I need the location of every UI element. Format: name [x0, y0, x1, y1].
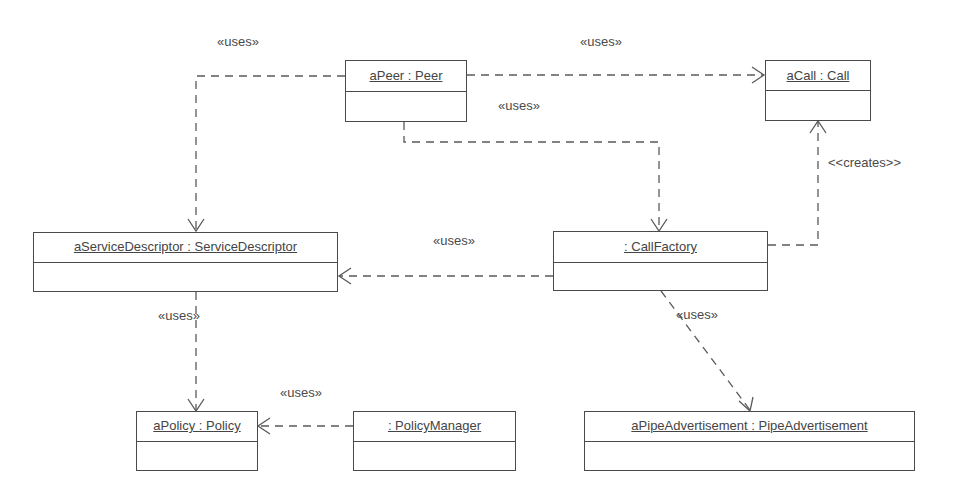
object-name: : PolicyManager	[354, 418, 515, 433]
compartment-divider	[137, 441, 257, 442]
object-name: aPipeAdvertisement : PipeAdvertisement	[585, 418, 914, 433]
object-apeer[interactable]: aPeer : Peer	[345, 60, 467, 122]
object-acall[interactable]: aCall : Call	[765, 60, 871, 121]
object-apipeadvertisement[interactable]: aPipeAdvertisement : PipeAdvertisement	[584, 411, 915, 471]
stereotype-label-callfactory-pipeadvertisement: «uses»	[676, 307, 718, 322]
object-policymanager[interactable]: : PolicyManager	[353, 411, 516, 471]
stereotype-label-peer-servicedescriptor: «uses»	[217, 34, 259, 49]
compartment-divider	[354, 441, 515, 442]
object-name: aPeer : Peer	[346, 68, 466, 83]
stereotype-label-servicedescriptor-policy: «uses»	[158, 308, 200, 323]
compartment-divider	[554, 262, 767, 263]
object-callfactory[interactable]: : CallFactory	[553, 231, 768, 291]
object-name: aPolicy : Policy	[137, 418, 257, 433]
connector-callfactory-creates-call	[768, 122, 818, 245]
compartment-divider	[346, 91, 466, 92]
object-name: aServiceDescriptor : ServiceDescriptor	[34, 239, 337, 254]
compartment-divider	[34, 262, 337, 263]
stereotype-label-callfactory-servicedescriptor: «uses»	[433, 233, 475, 248]
object-apolicy[interactable]: aPolicy : Policy	[136, 411, 258, 471]
stereotype-label-peer-call: «uses»	[580, 34, 622, 49]
compartment-divider	[585, 441, 914, 442]
compartment-divider	[766, 90, 870, 91]
object-name: aCall : Call	[766, 68, 870, 83]
stereotype-label-peer-callfactory: «uses»	[498, 98, 540, 113]
stereotype-label-policymanager-policy: «uses»	[280, 385, 322, 400]
stereotype-label-callfactory-creates-call: <<creates>>	[828, 155, 901, 170]
uml-object-diagram: aPeer : Peer aCall : Call aServiceDescri…	[0, 0, 954, 496]
object-aservicedescriptor[interactable]: aServiceDescriptor : ServiceDescriptor	[33, 232, 338, 292]
connector-peer-to-servicedescriptor	[196, 76, 345, 231]
object-name: : CallFactory	[554, 239, 767, 254]
connector-peer-to-callfactory	[404, 122, 659, 230]
